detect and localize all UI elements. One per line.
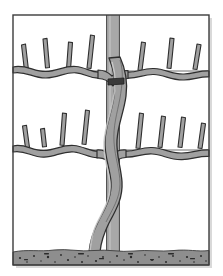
espalier-tree-illustration: Espalier-trained tree on post with horiz… [0,0,223,276]
illustration-canvas: Espalier-trained tree on post with horiz… [0,0,223,276]
soil-surface-fill [13,250,209,265]
trunk-tie-band [108,78,124,85]
soil-band [13,250,209,265]
